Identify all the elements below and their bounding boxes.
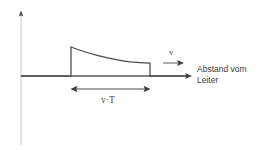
x-axis-label-line-2: Leiter (197, 75, 247, 86)
y-axis (19, 11, 24, 146)
span-arrow (71, 86, 151, 92)
pulse-waveform (21, 47, 187, 76)
x-axis-label: Abstand vom Leiter (197, 64, 247, 86)
wave-pulse-diagram: Abstand vom Leiter v v·T (0, 0, 262, 150)
pulse-curve (21, 47, 187, 76)
velocity-label: v (169, 47, 174, 57)
velocity-arrow (163, 60, 184, 66)
x-axis-label-line-1: Abstand vom (197, 64, 247, 75)
span-label: v·T (101, 95, 115, 105)
